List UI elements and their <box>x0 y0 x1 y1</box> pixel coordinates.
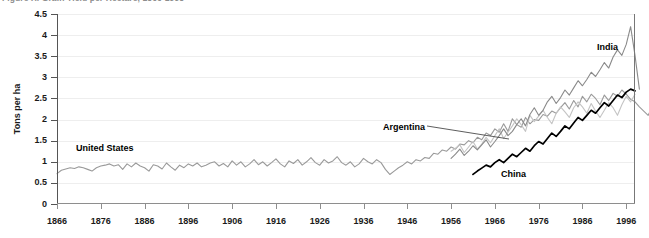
y-tick-label: 3.5 <box>3 52 47 61</box>
x-tick <box>101 204 102 209</box>
figure-title-clipped: Figure X. Grain Yield per Hectare, 1866-… <box>0 0 649 6</box>
x-tick <box>364 204 365 209</box>
annotation-india: India <box>597 42 618 52</box>
y-axis-label: Tons per ha <box>12 14 24 204</box>
x-tick-label: 1976 <box>519 217 559 226</box>
x-tick-label: 1886 <box>125 217 165 226</box>
annotation-argentina: Argentina <box>383 122 425 132</box>
x-tick <box>320 204 321 209</box>
x-tick-label: 1896 <box>168 217 208 226</box>
x-tick <box>232 204 233 209</box>
y-tick-label: 1.5 <box>3 136 47 145</box>
x-tick <box>145 204 146 209</box>
y-tick-label: 1 <box>3 157 47 166</box>
x-tick <box>495 204 496 209</box>
y-tick-label: 0.5 <box>3 178 47 187</box>
x-tick-label: 1946 <box>387 217 427 226</box>
x-tick-label: 1876 <box>81 217 121 226</box>
y-tick-label: 0 <box>3 200 47 209</box>
x-tick-label: 1916 <box>256 217 296 226</box>
x-tick <box>188 204 189 209</box>
x-tick-label: 1996 <box>606 217 646 226</box>
right-spine <box>634 14 635 204</box>
x-tick <box>276 204 277 209</box>
x-tick <box>407 204 408 209</box>
plot-area: Tons per ha 00.511.522.533.544.5 1866187… <box>57 14 635 204</box>
x-tick-label: 1866 <box>37 217 77 226</box>
x-tick-label: 1986 <box>562 217 602 226</box>
figure-title-text: Figure X. Grain Yield per Hectare, 1866-… <box>2 0 184 3</box>
x-tick <box>451 204 452 209</box>
x-tick-label: 1906 <box>212 217 252 226</box>
chart-figure: Figure X. Grain Yield per Hectare, 1866-… <box>0 0 649 238</box>
annotation-united-states: United States <box>76 143 134 153</box>
x-tick-label: 1926 <box>300 217 340 226</box>
series-group <box>57 14 635 204</box>
x-tick-label: 1966 <box>475 217 515 226</box>
y-tick-label: 2 <box>3 115 47 124</box>
y-tick-label: 2.5 <box>3 94 47 103</box>
x-tick-label: 1936 <box>344 217 384 226</box>
y-tick-label: 4.5 <box>3 10 47 19</box>
x-tick <box>57 204 58 209</box>
x-tick-label: 1956 <box>431 217 471 226</box>
annotation-china: China <box>501 169 526 179</box>
x-tick <box>626 204 627 209</box>
y-tick-label: 4 <box>3 31 47 40</box>
x-tick <box>539 204 540 209</box>
y-axis-spine <box>57 14 58 204</box>
x-axis-spine <box>57 203 635 204</box>
x-tick <box>582 204 583 209</box>
y-tick-label: 3 <box>3 73 47 82</box>
